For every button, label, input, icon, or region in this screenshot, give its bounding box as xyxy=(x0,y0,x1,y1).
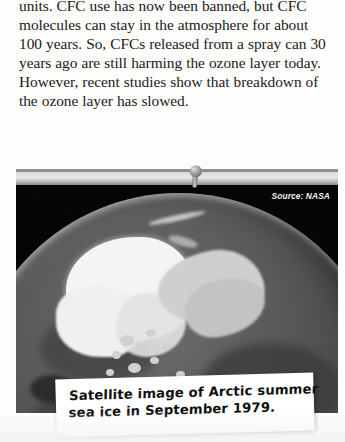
archipelago-island xyxy=(162,343,170,350)
archipelago-island xyxy=(150,357,159,364)
caption-card: Satellite image of Arctic summer sea ice… xyxy=(55,372,315,437)
archipelago-island xyxy=(146,329,156,337)
photo-mount-edge xyxy=(16,169,338,185)
archipelago-island xyxy=(112,351,121,359)
pushpin-icon xyxy=(180,159,210,199)
body-line: However, recent studies show that breakd… xyxy=(19,72,341,91)
star-speck xyxy=(316,239,317,240)
body-line: years ago are still harming the ozone la… xyxy=(19,53,341,72)
star-speck xyxy=(34,197,35,198)
body-paragraph: units. CFC use has now been banned, but … xyxy=(19,0,341,110)
caption-text: Satellite image of Arctic summer sea ice… xyxy=(69,381,306,422)
body-line: the ozone layer has slowed. xyxy=(19,91,341,110)
archipelago-island xyxy=(120,335,134,346)
body-line: molecules can stay in the atmosphere for… xyxy=(19,15,341,34)
star-speck xyxy=(70,215,71,216)
body-line: 100 years. So, CFCs released from a spra… xyxy=(19,34,341,53)
archipelago-island xyxy=(136,345,147,354)
star-speck xyxy=(278,207,279,208)
body-line: units. CFC use has now been banned, but … xyxy=(19,0,341,15)
photo-credit-rail: : (br) ©NASA/Goddard Space Flight Center… xyxy=(0,0,16,442)
photo-source-label: Source: NASA xyxy=(272,191,330,201)
archipelago-island xyxy=(128,363,141,373)
archipelago-island xyxy=(106,369,114,376)
page-canvas: : (br) ©NASA/Goddard Space Flight Center… xyxy=(0,0,345,442)
body-text: units. CFC use has now been banned, but … xyxy=(19,0,341,110)
